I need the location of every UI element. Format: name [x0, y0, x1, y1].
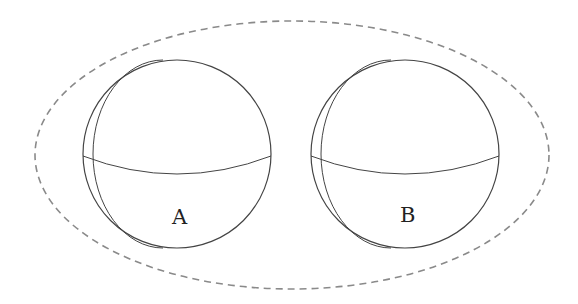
sphere-b: B [311, 60, 499, 248]
dashed-boundary [35, 21, 549, 289]
diagram-canvas: A B [0, 0, 578, 304]
sphere-a-label: A [171, 205, 188, 229]
sphere-b-label: B [400, 203, 415, 227]
sphere-a: A [83, 60, 271, 248]
